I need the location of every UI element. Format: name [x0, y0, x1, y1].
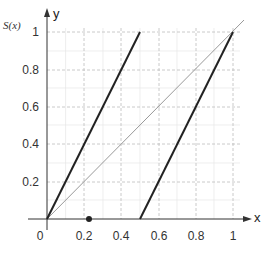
x-axis-arrow-icon	[243, 216, 252, 222]
svg-text:1: 1	[230, 229, 237, 243]
chart: 0 0.2 0.4 0.6 0.8 1 0.2 0.4 0.6 0.8 1 x …	[0, 0, 266, 256]
identity-line	[47, 20, 244, 219]
svg-text:0.2: 0.2	[76, 229, 93, 243]
s-branch-2	[140, 32, 233, 219]
x-axis-label: x	[254, 210, 261, 225]
svg-text:0.4: 0.4	[113, 229, 130, 243]
marker-point	[86, 216, 92, 222]
svg-text:0: 0	[37, 229, 44, 243]
y-axis-label: y	[53, 6, 60, 21]
series	[47, 20, 244, 222]
x-tick-labels: 0 0.2 0.4 0.6 0.8 1	[37, 229, 237, 243]
s-branch-1	[47, 32, 140, 219]
svg-text:0.8: 0.8	[188, 229, 205, 243]
svg-text:0.8: 0.8	[22, 63, 39, 77]
svg-text:0.4: 0.4	[22, 137, 39, 151]
svg-text:1: 1	[32, 25, 39, 39]
svg-text:0.6: 0.6	[151, 229, 168, 243]
svg-text:0.6: 0.6	[22, 100, 39, 114]
svg-text:0.2: 0.2	[22, 175, 39, 189]
function-label: S(x)	[3, 19, 21, 32]
y-tick-labels: 0.2 0.4 0.6 0.8 1	[22, 25, 39, 189]
y-axis-arrow-icon	[44, 8, 50, 17]
